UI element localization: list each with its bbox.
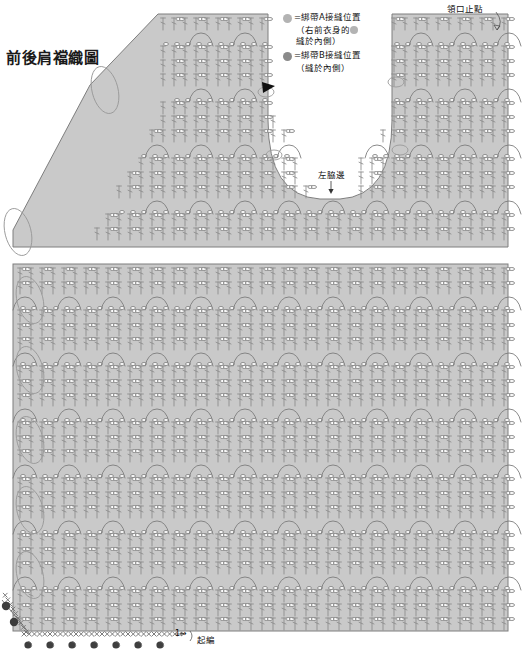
label-row-one: 1→ xyxy=(175,629,187,638)
label-left-side-seam: 左脇邊 xyxy=(318,168,345,180)
legend-item-b: =綁帶B接縫位置 （縫於內側） xyxy=(283,50,391,74)
legend-sub-a-2: 縫於內側） xyxy=(296,36,391,47)
label-start-knitting: 起編 xyxy=(197,633,215,645)
pointer-left-side xyxy=(328,181,333,194)
legend-sub-a-1-text: （右前衣身的 xyxy=(296,25,350,35)
legend-sub-a-1: （右前衣身的 xyxy=(296,25,391,36)
legend-item-a: =綁帶A接縫位置 （右前衣身的 縫於內側） xyxy=(283,12,391,47)
label-neckline-stop-point: 領口止點 xyxy=(447,2,483,14)
legend-dot-b xyxy=(283,52,292,61)
legend: =綁帶A接縫位置 （右前衣身的 縫於內側） =綁帶B接縫位置 （縫於內側） xyxy=(283,12,391,74)
crochet-chart-page: 前後肩襠織圖 =綁帶A接縫位置 （右前衣身的 縫於內側） =綁帶B接縫位置 （縫… xyxy=(0,0,532,655)
body-panel xyxy=(13,264,508,631)
legend-label-b: =綁帶B接縫位置 xyxy=(294,50,361,61)
legend-inline-dot-a xyxy=(350,26,358,34)
crochet-chart-diagram xyxy=(0,0,532,655)
page-title: 前後肩襠織圖 xyxy=(6,46,99,67)
legend-dot-a xyxy=(283,14,292,23)
legend-sub-b-1: （縫於內側） xyxy=(296,63,391,74)
legend-label-a: =綁帶A接縫位置 xyxy=(294,12,361,23)
